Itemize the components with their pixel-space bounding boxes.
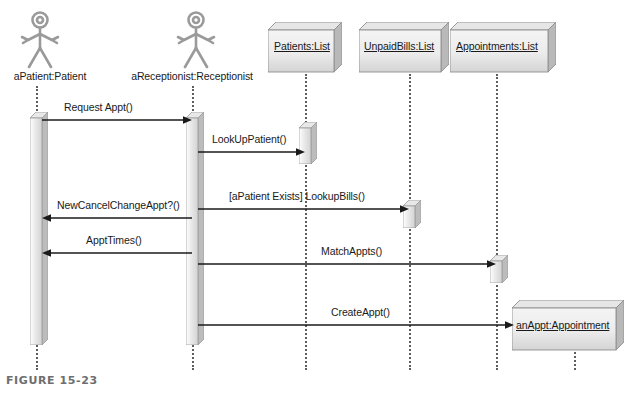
activation-bar-patients-list xyxy=(299,122,317,164)
figure-caption: FIGURE 15-23 xyxy=(6,374,98,387)
activation-bar-patient xyxy=(30,112,48,345)
message-label-appt-times: ApptTimes() xyxy=(86,234,142,246)
object-label-patients-list: Patients:List xyxy=(274,40,330,52)
lifeline-an-appt xyxy=(574,352,576,370)
message-label-lookup-patient: LookUpPatient() xyxy=(212,133,286,145)
object-label-an-appt: anAppt:Appointment xyxy=(516,319,609,331)
actor-figure-patient xyxy=(12,10,68,72)
message-label-lookup-bills: [aPatient Exists] LookupBills() xyxy=(229,190,365,202)
object-label-unpaid-bills: UnpaidBills:List xyxy=(364,40,434,52)
figure-container: aPatient:Patient aReceptionist:Reception… xyxy=(0,0,628,397)
message-label-create-appt: CreateAppt() xyxy=(331,306,390,318)
message-arrow-match-appts xyxy=(198,259,496,269)
actor-figure-receptionist xyxy=(168,10,224,72)
participant-label-receptionist: aReceptionist:Receptionist xyxy=(126,70,258,82)
message-arrow-lookup-bills xyxy=(198,204,409,214)
message-arrow-lookup-patient xyxy=(198,147,305,157)
message-label-new-cancel-change-appt: NewCancelChangeAppt?() xyxy=(57,199,180,211)
sequence-diagram: aPatient:Patient aReceptionist:Reception… xyxy=(0,0,628,372)
participant-label-patient: aPatient:Patient xyxy=(4,70,96,82)
message-arrow-new-cancel-change-appt xyxy=(42,213,192,223)
object-label-appointments: Appointments:List xyxy=(456,40,538,52)
message-arrow-appt-times xyxy=(42,248,192,258)
message-label-request-appt: Request Appt() xyxy=(64,101,133,113)
message-arrow-create-appt xyxy=(198,320,514,330)
message-arrow-request-appt xyxy=(42,115,192,125)
message-label-match-appts: MatchAppts() xyxy=(321,245,382,257)
